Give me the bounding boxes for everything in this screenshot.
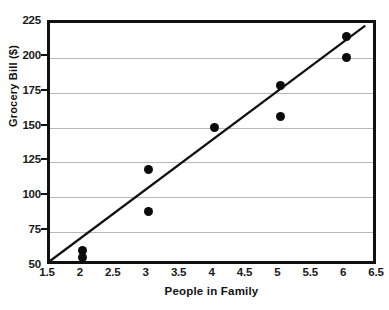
y-axis-tick-mark bbox=[41, 158, 47, 160]
data-point bbox=[144, 207, 153, 216]
y-axis-tick-label: 100 bbox=[1, 188, 41, 200]
y-axis-title-wrap: Grocery Bill ($) bbox=[7, 16, 23, 156]
y-axis-tick-mark bbox=[41, 89, 47, 91]
x-axis-title: People in Family bbox=[47, 285, 376, 297]
data-point bbox=[276, 112, 285, 121]
y-axis-tick-mark bbox=[41, 54, 47, 56]
y-axis-tick-label: 75 bbox=[1, 223, 41, 235]
x-axis-tick-layer: 1.522.533.544.555.566.5 bbox=[47, 266, 376, 286]
scatter-chart-figure: 5075100125150175200225 1.522.533.544.555… bbox=[0, 0, 389, 310]
plot-area-frame bbox=[47, 20, 376, 264]
plot-inner bbox=[50, 23, 373, 261]
chart-title bbox=[0, 0, 389, 5]
data-point bbox=[276, 81, 285, 90]
x-axis-tick-label: 6.5 bbox=[354, 266, 389, 278]
data-point bbox=[342, 53, 351, 62]
y-axis-tick-mark bbox=[41, 193, 47, 195]
data-point bbox=[210, 123, 219, 132]
y-axis-tick-mark bbox=[41, 124, 47, 126]
y-axis-title: Grocery Bill ($) bbox=[7, 16, 19, 156]
y-axis-tick-mark bbox=[41, 228, 47, 230]
trend-line bbox=[50, 23, 373, 261]
